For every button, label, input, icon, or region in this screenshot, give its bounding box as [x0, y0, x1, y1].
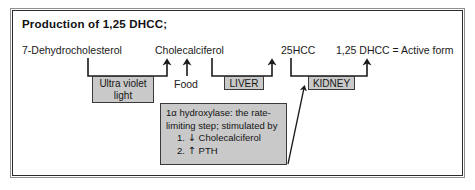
arrow-uv-conversion	[88, 58, 167, 76]
annotation-item-2-number: 2.	[177, 145, 185, 156]
down-arrow-icon: ↓	[188, 132, 196, 143]
conversion-box-liver: LIVER	[224, 76, 264, 90]
conversion-label-food: Food	[174, 78, 198, 90]
figure-container: Production of 1,25 DHCC; 7-Dehydrocholes…	[0, 0, 475, 190]
annotation-item-1: 1. ↓ Cholecalciferol	[166, 132, 282, 145]
annotation-item-1-text: Cholecalciferol	[199, 132, 261, 143]
annotation-line-2: limiting step; stimulated by	[166, 120, 282, 133]
annotation-box: 1α hydroxylase: the rate- limiting step;…	[160, 103, 287, 165]
arrow-liver-conversion	[212, 58, 272, 76]
conversion-box-ultra-violet: Ultra violet light	[92, 76, 154, 103]
arrow-kidney-conversion	[291, 58, 367, 76]
annotation-item-1-number: 1.	[177, 132, 185, 143]
conversion-box-kidney: KIDNEY	[308, 76, 355, 90]
annotation-line-1: 1α hydroxylase: the rate-	[166, 107, 282, 120]
up-arrow-icon: ↑	[188, 145, 196, 156]
annotation-item-2-text: PTH	[199, 145, 218, 156]
annotation-leader-arrow	[288, 88, 304, 164]
annotation-item-2: 2. ↑ PTH	[166, 145, 282, 158]
